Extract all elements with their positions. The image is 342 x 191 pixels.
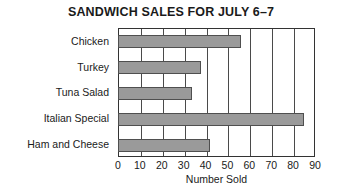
bar-italian-special (118, 113, 304, 126)
x-tick-30: 30 (178, 159, 190, 171)
x-tick-80: 80 (287, 159, 299, 171)
x-tick-20: 20 (156, 159, 168, 171)
bar-row (119, 132, 314, 158)
category-label-italian-special: Italian Special (0, 105, 113, 131)
bar-turkey (118, 61, 201, 74)
category-label-turkey: Turkey (0, 54, 113, 80)
x-axis-tick-labels: 0102030405060708090 (118, 159, 315, 173)
x-tick-50: 50 (222, 159, 234, 171)
chart-figure: SANDWICH SALES FOR JULY 6–7 ChickenTurke… (0, 0, 342, 191)
category-label-chicken: Chicken (0, 28, 113, 54)
plot-area (118, 28, 315, 157)
x-tick-90: 90 (309, 159, 321, 171)
category-label-tuna-salad: Tuna Salad (0, 80, 113, 106)
x-tick-60: 60 (243, 159, 255, 171)
bar-row (119, 29, 314, 55)
chart-title: SANDWICH SALES FOR JULY 6–7 (0, 5, 342, 19)
bars-layer (119, 29, 314, 156)
category-axis-labels: ChickenTurkeyTuna SaladItalian SpecialHa… (0, 28, 113, 157)
category-label-ham-and-cheese: Ham and Cheese (0, 131, 113, 157)
bar-row (119, 81, 314, 107)
x-tick-70: 70 (265, 159, 277, 171)
x-tick-40: 40 (200, 159, 212, 171)
bar-row (119, 106, 314, 132)
x-tick-10: 10 (134, 159, 146, 171)
bar-chicken (118, 35, 241, 48)
bar-tuna-salad (118, 87, 192, 100)
x-axis-label: Number Sold (118, 173, 315, 185)
bar-row (119, 55, 314, 81)
bar-ham-and-cheese (118, 139, 210, 152)
x-tick-0: 0 (115, 159, 121, 171)
